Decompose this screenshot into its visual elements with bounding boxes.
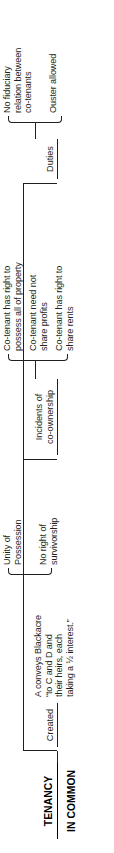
incident-possess-text: Co-tenant has right to possess all of pr… bbox=[2, 233, 23, 351]
no-right-of-survivorship-text: No right of survivorship bbox=[38, 485, 59, 565]
unity-of-possession-text: Unity of Possession bbox=[2, 485, 23, 565]
incidents-riser bbox=[23, 459, 57, 460]
main-trunk bbox=[23, 750, 57, 751]
diagram-canvas: TENANCY IN COMMON Created A conveys Blac… bbox=[0, 0, 114, 853]
duties-bracket-elbow-top bbox=[8, 116, 15, 123]
incident-profits-text: Co-tenant need not share profits bbox=[28, 233, 49, 351]
duties-bracket-stem bbox=[35, 123, 36, 139]
duties-riser bbox=[23, 183, 57, 184]
title-line-1: TENANCY bbox=[43, 776, 54, 826]
incident-rents-text: Co-tenant has right to share rents bbox=[54, 233, 75, 351]
duties-underline bbox=[57, 139, 58, 179]
unity-bracket-spine bbox=[12, 574, 46, 575]
title-line-2: IN COMMON bbox=[66, 770, 77, 832]
incidents-bracket-stem bbox=[35, 361, 36, 379]
duties-bracket-elbow-bottom bbox=[55, 116, 62, 123]
title-underline bbox=[57, 763, 59, 839]
duty-ouster-text: Ouster allowed bbox=[48, 9, 59, 113]
incidents-underline bbox=[57, 379, 58, 455]
created-example-text: A conveys Blackacre “to C and D and thei… bbox=[33, 585, 75, 697]
diagram-stage: TENANCY IN COMMON Created A conveys Blac… bbox=[0, 0, 114, 853]
root-connector bbox=[57, 751, 58, 763]
duties-branch-line bbox=[23, 184, 24, 751]
incidents-bracket-elbow-top bbox=[8, 354, 15, 361]
duties-bracket-spine bbox=[12, 122, 56, 123]
branch-label-incidents: Incidents of co-ownership bbox=[34, 379, 55, 455]
unity-bracket-elbow-top bbox=[8, 568, 15, 575]
duty-no-fiduciary-text: No fiduciary relation between co-tenants bbox=[2, 9, 34, 113]
created-underline bbox=[57, 703, 58, 747]
branch-label-created: Created bbox=[45, 703, 56, 747]
unity-bracket-elbow-bottom bbox=[45, 568, 52, 575]
page-title: TENANCY IN COMMON bbox=[31, 763, 77, 839]
branch-label-duties: Duties bbox=[45, 139, 56, 179]
incidents-bracket-elbow-bottom bbox=[61, 354, 68, 361]
incidents-bracket-spine bbox=[12, 360, 62, 361]
